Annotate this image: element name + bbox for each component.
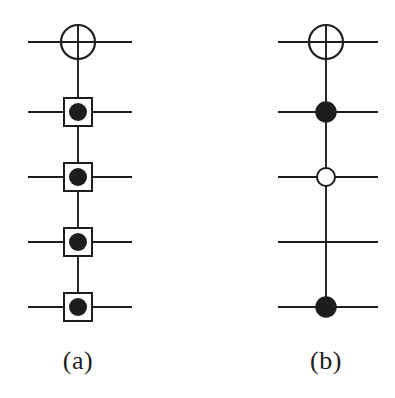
boxed-control-dot-icon-a-3 <box>64 163 92 191</box>
panel-a-caption: (a) <box>33 348 123 374</box>
open-control-dot-icon-b-3 <box>317 168 335 186</box>
xor-target-icon-a <box>61 25 95 59</box>
circuit-figure: (a) (b) <box>0 0 395 398</box>
boxed-control-dot-icon-a-2 <box>64 98 92 126</box>
filled-control-dot-icon-b-5 <box>316 297 336 317</box>
xor-target-icon-b <box>309 25 343 59</box>
panel-b-caption: (b) <box>281 348 371 374</box>
boxed-control-dot-icon-a-5 <box>64 293 92 321</box>
circuit-canvas <box>0 0 395 398</box>
panel-b <box>278 25 378 317</box>
panel-a <box>28 25 132 321</box>
filled-control-dot-icon-b-2 <box>316 102 336 122</box>
boxed-control-dot-icon-a-4 <box>64 228 92 256</box>
